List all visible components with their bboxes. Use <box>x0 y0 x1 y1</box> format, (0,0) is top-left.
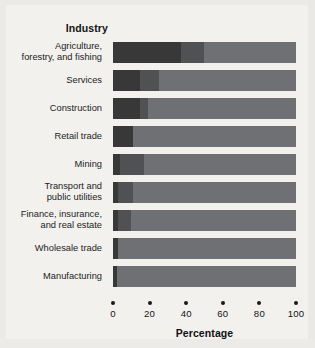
stacked-bar <box>113 98 296 119</box>
x-axis-tick: 40 <box>176 301 196 319</box>
bar-row-label-line: Agriculture, <box>55 41 102 52</box>
bar-segment-3 <box>159 70 296 91</box>
bar-row-label: Mining <box>0 150 105 178</box>
x-axis-tick: 0 <box>103 301 123 319</box>
bar-row-label: Finance, insurance,and real estate <box>0 206 105 234</box>
x-axis-tick-label: 60 <box>213 308 233 319</box>
bar-segment-2 <box>118 182 133 203</box>
bar-row-label: Services <box>0 66 105 94</box>
tick-dot-icon <box>184 301 188 305</box>
bar-row-label-line: Services <box>66 75 102 86</box>
stacked-bar <box>113 70 296 91</box>
stacked-bar <box>113 154 296 175</box>
bar-row-label: Wholesale trade <box>0 234 105 262</box>
bar-segment-1 <box>113 154 120 175</box>
bar-segment-1 <box>113 126 133 147</box>
bar-segment-2 <box>140 98 147 119</box>
bar-row-label-line: Mining <box>75 159 102 170</box>
bar-row-label-line: public utilities <box>47 192 102 203</box>
bar-segment-1 <box>113 98 140 119</box>
bar-row-label: Manufacturing <box>0 262 105 290</box>
bar-row: Finance, insurance,and real estate <box>0 206 315 234</box>
bar-row: Retail trade <box>0 122 315 150</box>
bar-row: Agriculture,forestry, and fishing <box>0 38 315 66</box>
bar-segment-2 <box>118 210 131 231</box>
bar-row-label: Retail trade <box>0 122 105 150</box>
bar-segment-3 <box>148 98 296 119</box>
bar-row-label: Transport andpublic utilities <box>0 178 105 206</box>
bar-row: Transport andpublic utilities <box>0 178 315 206</box>
bar-segment-1 <box>113 70 140 91</box>
x-axis-title: Percentage <box>113 327 296 339</box>
bar-segment-2 <box>140 70 158 91</box>
x-axis-tick: 80 <box>249 301 269 319</box>
industry-column-title: Industry <box>0 22 108 34</box>
x-axis-tick-label: 80 <box>249 308 269 319</box>
stacked-bar <box>113 238 296 259</box>
stacked-bar-chart: Industry Agriculture,forestry, and fishi… <box>0 0 315 348</box>
bar-row-label-line: Transport and <box>44 181 102 192</box>
stacked-bar <box>113 126 296 147</box>
tick-dot-icon <box>148 301 152 305</box>
x-axis-tick-label: 100 <box>286 308 306 319</box>
bar-segment-3 <box>118 238 296 259</box>
bar-segment-3 <box>144 154 296 175</box>
bar-segment-3 <box>204 42 296 63</box>
bar-row-label-line: Finance, insurance, <box>21 209 102 220</box>
bar-segment-2 <box>120 154 144 175</box>
bar-segment-3 <box>117 266 296 287</box>
stacked-bar <box>113 182 296 203</box>
x-axis-tick-label: 0 <box>103 308 123 319</box>
bar-segment-1 <box>113 42 181 63</box>
bar-row: Manufacturing <box>0 262 315 290</box>
x-axis-tick: 100 <box>286 301 306 319</box>
x-axis-tick-label: 40 <box>176 308 196 319</box>
bar-segment-3 <box>133 126 296 147</box>
bar-row: Services <box>0 66 315 94</box>
bar-segment-2 <box>181 42 205 63</box>
bar-row-label-line: forestry, and fishing <box>22 52 102 63</box>
x-axis-tick-label: 20 <box>140 308 160 319</box>
bar-row-label: Construction <box>0 94 105 122</box>
bar-row: Mining <box>0 150 315 178</box>
x-axis-tick: 60 <box>213 301 233 319</box>
bar-row: Wholesale trade <box>0 234 315 262</box>
bar-row-label-line: Wholesale trade <box>35 243 102 254</box>
bar-segment-3 <box>133 182 296 203</box>
bar-segment-3 <box>131 210 296 231</box>
stacked-bar <box>113 210 296 231</box>
bar-row: Construction <box>0 94 315 122</box>
x-axis-tick: 20 <box>140 301 160 319</box>
tick-dot-icon <box>111 301 115 305</box>
tick-dot-icon <box>257 301 261 305</box>
bar-row-label-line: Manufacturing <box>43 271 102 282</box>
bar-row-label-line: Construction <box>50 103 102 114</box>
chart-page: Industry Agriculture,forestry, and fishi… <box>0 0 315 348</box>
tick-dot-icon <box>221 301 225 305</box>
bar-row-label-line: Retail trade <box>54 131 102 142</box>
bar-row-label: Agriculture,forestry, and fishing <box>0 38 105 66</box>
tick-dot-icon <box>294 301 298 305</box>
stacked-bar <box>113 266 296 287</box>
bar-row-label-line: and real estate <box>40 220 102 231</box>
stacked-bar <box>113 42 296 63</box>
